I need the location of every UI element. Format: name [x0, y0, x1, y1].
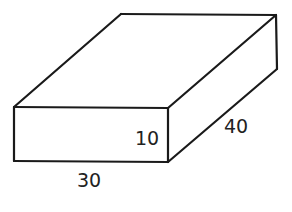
edge-front-top — [14, 107, 168, 108]
edge-front-bottom — [14, 161, 168, 162]
edge-top-back — [121, 14, 276, 15]
box-diagram — [0, 0, 292, 212]
edge-back-right — [276, 15, 277, 69]
length-label: 30 — [77, 171, 101, 190]
height-label: 10 — [135, 129, 159, 148]
depth-label: 40 — [224, 117, 248, 136]
